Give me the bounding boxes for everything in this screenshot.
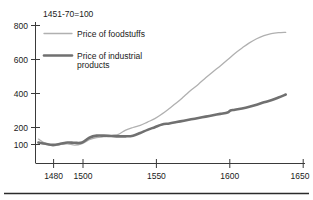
x-tick-label-1480: 1480 [44,171,63,181]
y-tick-label-400: 400 [14,89,28,99]
chart-background [0,0,313,200]
legend-label-industrial-line2: products [77,60,110,70]
x-tick-label-1600: 1600 [220,171,239,181]
legend-label-foodstuffs: Price of foodstuffs [77,29,145,39]
y-tick-label-100: 100 [14,140,28,150]
x-tick-label-1550: 1550 [147,171,166,181]
y-tick-label-600: 600 [14,55,28,65]
chart-figure: 1451-70=100 800 600 400 200 100 1480 150… [0,0,313,200]
y-tick-label-200: 200 [14,123,28,133]
price-index-line-chart: 1451-70=100 800 600 400 200 100 1480 150… [0,0,313,200]
legend-label-industrial-line1: Price of industrial [77,51,142,61]
chart-title: 1451-70=100 [43,9,94,19]
x-tick-label-1650: 1650 [291,171,310,181]
y-tick-label-800: 800 [14,21,28,31]
x-tick-label-1500: 1500 [74,171,93,181]
